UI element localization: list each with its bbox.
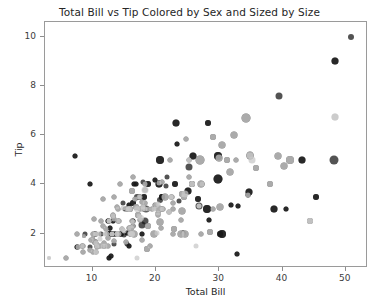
scatter-point: [332, 58, 339, 65]
y-tick: [40, 85, 44, 86]
scatter-point: [169, 195, 174, 200]
scatter-point: [280, 163, 287, 170]
scatter-point: [210, 206, 215, 211]
scatter-point: [116, 219, 121, 224]
scatter-point: [132, 197, 137, 202]
scatter-point: [142, 187, 149, 194]
scatter-points-layer: [45, 22, 366, 266]
scatter-point: [129, 231, 135, 237]
scatter-point: [134, 255, 139, 260]
scatter-point: [63, 256, 68, 261]
scatter-point: [100, 197, 105, 202]
scatter-point: [160, 206, 165, 211]
scatter-point: [131, 220, 136, 225]
scatter-point: [117, 182, 122, 187]
scatter-point: [215, 155, 222, 162]
scatter-point: [167, 157, 172, 162]
scatter-point: [157, 219, 164, 226]
y-tick-label: 2: [16, 228, 36, 238]
scatter-point: [155, 231, 160, 236]
x-tick-label: 10: [86, 273, 97, 283]
scatter-point: [106, 243, 111, 248]
scatter-point: [163, 184, 168, 189]
scatter-point: [156, 180, 161, 185]
scatter-point: [140, 237, 145, 242]
x-tick-label: 40: [276, 273, 287, 283]
scatter-point: [267, 181, 273, 187]
scatter-point: [106, 219, 111, 224]
scatter-point: [348, 34, 354, 40]
scatter-point: [92, 216, 97, 221]
scatter-point: [93, 250, 98, 255]
scatter-point: [207, 229, 213, 235]
scatter-point: [235, 251, 240, 256]
scatter-point: [112, 195, 117, 200]
page-title: Total Bill vs Tip Colored by Sex and Siz…: [0, 6, 379, 18]
y-tick-label: 10: [16, 31, 36, 41]
scatter-point: [186, 163, 193, 170]
scatter-point: [178, 230, 185, 237]
scatter-point: [96, 232, 101, 237]
scatter-point: [130, 174, 135, 179]
scatter-point: [234, 157, 239, 162]
scatter-point: [217, 203, 224, 210]
scatter-point: [194, 243, 199, 248]
scatter-point: [88, 248, 93, 253]
scatter-point: [87, 182, 92, 187]
scatter-point: [231, 132, 238, 139]
scatter-point: [73, 154, 78, 159]
scatter-point: [178, 207, 185, 214]
scatter-point: [167, 209, 172, 214]
scatter-point: [120, 226, 125, 231]
scatter-point: [330, 155, 339, 164]
x-tick: [92, 267, 93, 271]
scatter-point: [199, 231, 204, 236]
scatter-point: [213, 175, 222, 184]
scatter-point: [299, 156, 306, 163]
x-tick: [218, 267, 219, 271]
y-tick-label: 6: [16, 129, 36, 139]
x-axis-label: Total Bill: [44, 286, 367, 297]
scatter-point: [81, 250, 86, 255]
scatter-point: [171, 200, 176, 205]
scatter-point: [146, 206, 151, 211]
scatter-point: [218, 142, 225, 149]
x-tick-label: 20: [149, 273, 160, 283]
scatter-figure: Total Bill vs Tip Colored by Sex and Siz…: [0, 0, 379, 303]
scatter-point: [170, 231, 175, 236]
scatter-point: [242, 113, 251, 122]
scatter-point: [76, 245, 81, 250]
scatter-point: [331, 114, 338, 121]
scatter-point: [103, 232, 108, 237]
y-tick: [40, 134, 44, 135]
scatter-point: [124, 206, 129, 211]
scatter-point: [137, 194, 142, 199]
x-tick: [155, 267, 156, 271]
scatter-point: [104, 226, 109, 231]
scatter-point: [235, 204, 240, 209]
scatter-point: [286, 156, 294, 164]
scatter-point: [112, 239, 117, 244]
scatter-point: [197, 203, 202, 208]
scatter-point: [91, 236, 95, 240]
scatter-point: [274, 153, 281, 160]
scatter-point: [164, 174, 169, 179]
scatter-point: [183, 136, 188, 141]
scatter-point: [205, 120, 211, 126]
y-tick: [40, 233, 44, 234]
scatter-point: [140, 204, 145, 209]
x-tick-label: 50: [339, 273, 350, 283]
scatter-point: [224, 157, 230, 163]
scatter-point: [129, 188, 135, 194]
y-tick: [40, 183, 44, 184]
scatter-point: [144, 246, 150, 252]
scatter-point: [283, 206, 288, 211]
scatter-point: [114, 231, 119, 236]
scatter-point: [307, 218, 313, 224]
scatter-point: [195, 196, 201, 202]
scatter-point: [156, 156, 164, 164]
scatter-point: [177, 199, 182, 204]
scatter-point: [47, 256, 51, 260]
scatter-point: [98, 237, 103, 242]
scatter-point: [179, 191, 185, 197]
